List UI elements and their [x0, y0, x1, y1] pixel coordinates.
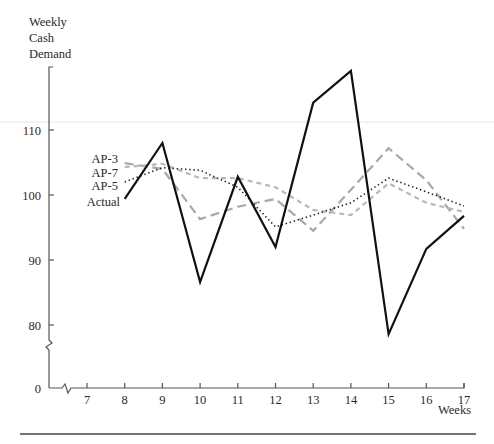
x-tick-label: 7 — [84, 393, 90, 407]
y-tick-label: 90 — [29, 254, 42, 268]
series-lines — [125, 71, 464, 334]
x-axis-title: Weeks — [438, 403, 471, 417]
y-tick-label: 110 — [23, 124, 41, 138]
x-ticks: 7891011121314151617 — [84, 383, 470, 407]
y-tick-label: 100 — [22, 189, 41, 203]
y-axis — [46, 67, 53, 388]
x-tick-label: 15 — [382, 393, 395, 407]
x-tick-label: 13 — [307, 393, 320, 407]
y-tick-label: 80 — [29, 319, 42, 333]
series-actual-line — [125, 71, 464, 334]
x-tick-label: 16 — [420, 393, 433, 407]
x-tick-label: 9 — [159, 393, 165, 407]
inline-legend: AP-3AP-7AP-5Actual — [87, 152, 121, 209]
y-tick-label: 0 — [35, 382, 41, 396]
x-tick-label: 8 — [122, 393, 128, 407]
line-chart: 08090100110 7891011121314151617 Weeks AP… — [0, 0, 494, 444]
legend-label-ap-7: AP-7 — [92, 166, 118, 180]
legend-label-actual: Actual — [87, 195, 121, 209]
x-tick-label: 12 — [269, 393, 282, 407]
x-tick-label: 10 — [194, 393, 207, 407]
x-tick-label: 14 — [345, 393, 358, 407]
x-tick-label: 11 — [232, 393, 244, 407]
x-axis — [49, 383, 464, 393]
legend-label-ap-3: AP-3 — [92, 152, 118, 166]
legend-label-ap-5: AP-5 — [92, 179, 118, 193]
